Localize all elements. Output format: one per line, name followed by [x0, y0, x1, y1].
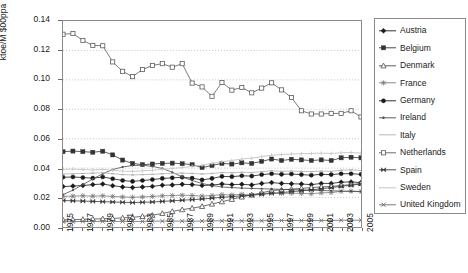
legend-marker-icon: [378, 92, 398, 110]
series-sweden: [63, 151, 361, 173]
x-axis-tick-mark: [62, 228, 63, 231]
x-axis-tick-mark: [222, 228, 223, 231]
x-axis-tick-mark: [322, 228, 323, 231]
series-netherlands: [63, 31, 361, 119]
x-axis-tick-label: 1981: [126, 213, 135, 232]
series-belgium: [63, 149, 361, 170]
x-axis-tick-mark: [82, 228, 83, 231]
legend-item-label: Germany: [400, 95, 435, 105]
x-axis-tick-mark: [162, 228, 163, 231]
x-axis-tick-label: 1989: [206, 213, 215, 232]
x-axis-tick-label: 1983: [146, 213, 155, 232]
x-axis-tick-mark: [282, 228, 283, 231]
y-axis-tick-label: 0.10: [33, 74, 50, 83]
legend-item-ireland[interactable]: Ireland: [376, 109, 466, 127]
y-axis-tick-label: 0.12: [33, 45, 50, 54]
x-axis-tick-label: 1987: [186, 213, 195, 232]
legend-marker-icon: [378, 22, 398, 40]
x-axis-tick-mark: [362, 228, 363, 231]
legend-item-label: Netherlands: [400, 147, 446, 157]
y-axis-tick-mark: [58, 198, 62, 199]
y-axis-tick-mark: [58, 20, 62, 21]
legend-item-label: Belgium: [400, 43, 431, 53]
x-axis-tick-label: 2003: [346, 213, 355, 232]
y-axis-tick-label: 0.00: [33, 223, 50, 232]
x-axis-tick-label: 1997: [286, 213, 295, 232]
series-italy: [63, 170, 361, 175]
legend-item-label: Spain: [400, 165, 422, 175]
y-axis-tick-label: 0.02: [33, 193, 50, 202]
x-axis-tick-mark: [182, 228, 183, 231]
y-axis-tick-label: 0.06: [33, 134, 50, 143]
legend-item-label: Ireland: [400, 112, 426, 122]
legend-item-denmark[interactable]: Denmark: [376, 57, 466, 75]
x-axis-tick-label: 1977: [86, 213, 95, 232]
legend-item-italy[interactable]: Italy: [376, 126, 466, 144]
x-axis-tick-label: 1999: [306, 213, 315, 232]
x-axis-tick-mark: [242, 228, 243, 231]
x-axis-tick-label: 1979: [106, 213, 115, 232]
plot-area: [62, 20, 362, 228]
legend-marker-icon: [378, 161, 398, 179]
chart-figure: 0.000.020.040.060.080.100.120.14 ktoe/M …: [0, 0, 468, 273]
y-axis-tick-mark: [58, 50, 62, 51]
legend-item-belgium[interactable]: Belgium: [376, 39, 466, 57]
x-axis-tick-label: 1993: [246, 213, 255, 232]
legend-marker-icon: [378, 39, 398, 57]
y-axis-tick-labels: 0.000.020.040.060.080.100.120.14: [0, 0, 58, 273]
legend-item-france[interactable]: France: [376, 74, 466, 92]
x-axis-tick-label: 2001: [326, 213, 335, 232]
x-axis-tick-mark: [302, 228, 303, 231]
legend-marker-icon: [378, 196, 398, 214]
legend-item-label: Italy: [400, 130, 416, 140]
legend-item-label: Denmark: [400, 60, 434, 70]
y-axis-tick-label: 0.08: [33, 104, 50, 113]
series-layer: [63, 21, 361, 227]
x-axis-tick-label: 1995: [266, 213, 275, 232]
x-axis-tick-mark: [102, 228, 103, 231]
x-axis-tick-label: 1991: [226, 213, 235, 232]
legend-marker-icon: [378, 74, 398, 92]
chart-legend: AustriaBelgiumDenmarkFranceGermanyIrelan…: [374, 18, 466, 214]
x-axis-tick-label: 1985: [166, 213, 175, 232]
x-axis-tick-mark: [142, 228, 143, 231]
x-axis-tick-mark: [342, 228, 343, 231]
legend-item-label: Austria: [400, 25, 426, 35]
legend-item-label: United Kingdom: [400, 199, 460, 209]
legend-marker-icon: [378, 144, 398, 162]
legend-item-united-kingdom[interactable]: United Kingdom: [376, 196, 466, 214]
x-axis-tick-label: 2005: [366, 213, 375, 232]
x-axis-tick-mark: [202, 228, 203, 231]
legend-item-label: France: [400, 78, 426, 88]
legend-item-spain[interactable]: Spain: [376, 161, 466, 179]
legend-marker-icon: [378, 126, 398, 144]
legend-marker-icon: [378, 179, 398, 197]
x-axis-tick-label: 1975: [66, 213, 75, 232]
y-axis-tick-mark: [58, 79, 62, 80]
y-axis-tick-mark: [58, 109, 62, 110]
legend-item-netherlands[interactable]: Netherlands: [376, 144, 466, 162]
legend-item-label: Sweden: [400, 182, 431, 192]
y-axis-tick-mark: [58, 139, 62, 140]
legend-marker-icon: [378, 57, 398, 75]
y-axis-tick-label: 0.04: [33, 164, 50, 173]
legend-item-germany[interactable]: Germany: [376, 92, 466, 110]
x-axis-tick-mark: [262, 228, 263, 231]
y-axis-tick-label: 0.14: [33, 15, 50, 24]
y-axis-tick-mark: [58, 169, 62, 170]
x-axis-tick-mark: [122, 228, 123, 231]
legend-item-austria[interactable]: Austria: [376, 22, 466, 40]
legend-item-sweden[interactable]: Sweden: [376, 179, 466, 197]
y-axis-title: ktoe/M $00ppa: [0, 0, 8, 92]
legend-marker-icon: [378, 109, 398, 127]
